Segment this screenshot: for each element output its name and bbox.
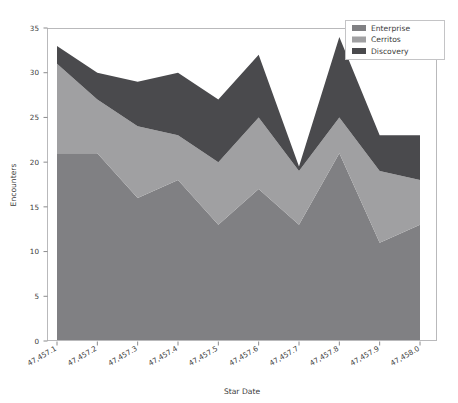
x-tick-label: 47,458.0 bbox=[389, 344, 422, 368]
chart-legend: EnterpriseCerritosDiscovery bbox=[346, 21, 445, 60]
chart-canvas: 05101520253035 47,457.147,457.247,457.34… bbox=[0, 0, 458, 403]
x-axis-title: Star Date bbox=[224, 387, 260, 396]
y-tick-label: 35 bbox=[30, 24, 39, 33]
x-tick-label: 47,457.2 bbox=[66, 344, 98, 368]
x-tick-label: 47,457.5 bbox=[187, 344, 219, 368]
y-axis: 05101520253035 bbox=[30, 24, 48, 346]
x-tick-label: 47,457.7 bbox=[268, 344, 300, 368]
legend-swatch-discovery bbox=[352, 48, 366, 54]
y-tick-label: 5 bbox=[34, 292, 39, 301]
y-tick-label: 15 bbox=[30, 203, 39, 212]
legend-label-discovery: Discovery bbox=[371, 47, 409, 56]
legend-label-enterprise: Enterprise bbox=[371, 24, 410, 33]
y-axis-title: Encounters bbox=[9, 164, 18, 207]
x-axis: 47,457.147,457.247,457.347,457.447,457.5… bbox=[26, 342, 422, 368]
legend-label-cerritos: Cerritos bbox=[371, 35, 401, 44]
legend-swatch-enterprise bbox=[352, 25, 366, 31]
y-tick-label: 0 bbox=[34, 337, 39, 346]
stacked-area-chart: 05101520253035 47,457.147,457.247,457.34… bbox=[0, 0, 458, 403]
y-tick-label: 30 bbox=[30, 68, 40, 77]
legend-swatch-cerritos bbox=[352, 37, 366, 43]
y-tick-label: 25 bbox=[30, 113, 39, 122]
x-tick-label: 47,457.8 bbox=[308, 344, 341, 368]
x-tick-label: 47,457.6 bbox=[227, 344, 260, 368]
y-tick-label: 20 bbox=[30, 158, 40, 167]
x-tick-label: 47,457.4 bbox=[147, 344, 180, 368]
x-tick-label: 47,457.3 bbox=[106, 344, 138, 368]
x-tick-label: 47,457.9 bbox=[348, 344, 381, 368]
y-tick-label: 10 bbox=[30, 247, 40, 256]
x-tick-label: 47,457.1 bbox=[26, 344, 58, 368]
